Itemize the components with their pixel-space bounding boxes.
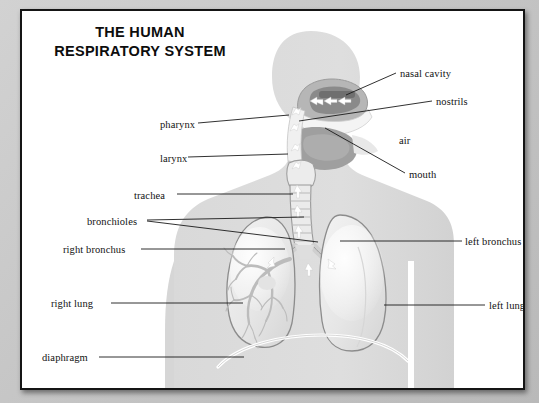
poster-page: THE HUMAN RESPIRATORY SYSTEM pharynx lar… — [0, 0, 539, 403]
poster-frame: THE HUMAN RESPIRATORY SYSTEM pharynx lar… — [20, 9, 525, 390]
label-diaphragm: diaphragm — [42, 352, 88, 363]
label-larynx: larynx — [160, 153, 187, 164]
label-bronchioles: bronchioles — [87, 216, 137, 227]
label-right-lung: right lung — [51, 298, 93, 309]
label-nasal-cavity: nasal cavity — [400, 68, 451, 79]
label-nostrils: nostrils — [436, 96, 468, 107]
title-line-1: THE HUMAN — [40, 23, 240, 42]
leader-pharynx — [198, 115, 289, 123]
page-title: THE HUMAN RESPIRATORY SYSTEM — [40, 23, 240, 61]
label-left-bronchus: left bronchus — [465, 236, 521, 247]
title-line-2: RESPIRATORY SYSTEM — [40, 42, 240, 61]
label-trachea: trachea — [134, 190, 165, 201]
label-pharynx: pharynx — [160, 119, 195, 130]
leader-larynx — [188, 154, 288, 157]
label-air: air — [399, 135, 410, 146]
label-left-lung: left lung — [489, 300, 525, 311]
label-right-bronchus: right bronchus — [63, 244, 125, 255]
label-mouth: mouth — [409, 169, 436, 180]
